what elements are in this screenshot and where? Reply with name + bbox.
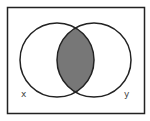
venn-diagram: x y [0, 0, 150, 121]
set-y-label: y [124, 89, 130, 99]
set-x-label: x [21, 89, 27, 99]
